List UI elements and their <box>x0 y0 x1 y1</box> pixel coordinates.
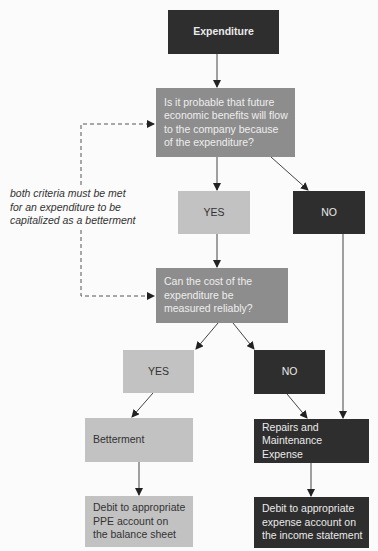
node-question-future-benefits-label: Is it probable that future economic bene… <box>164 96 288 150</box>
node-question-cost-reliable: Can the cost of the expenditure be measu… <box>156 268 288 323</box>
node-q2-no: NO <box>254 350 325 394</box>
node-repairs-maintenance: Repairs and Maintenance Expense <box>254 419 369 463</box>
node-q2-yes-label: YES <box>148 365 169 379</box>
node-q1-yes: YES <box>178 191 250 234</box>
node-betterment: Betterment <box>85 418 193 462</box>
node-repairs-maintenance-label: Repairs and Maintenance Expense <box>262 421 363 462</box>
node-q1-yes-label: YES <box>203 206 224 220</box>
node-debit-ppe-label: Debit to appropriate PPE account on the … <box>93 501 185 542</box>
node-betterment-label: Betterment <box>93 433 144 447</box>
node-q2-yes: YES <box>123 350 194 393</box>
node-question-cost-reliable-label: Can the cost of the expenditure be measu… <box>164 275 253 316</box>
node-debit-expense-label: Debit to appropriate expense account on … <box>262 502 362 543</box>
node-q1-no-label: NO <box>321 206 337 220</box>
node-question-future-benefits: Is it probable that future economic bene… <box>156 88 295 157</box>
node-q1-no: NO <box>293 191 365 234</box>
node-q2-no-label: NO <box>282 365 298 379</box>
node-expenditure: Expenditure <box>168 10 279 54</box>
node-debit-ppe: Debit to appropriate PPE account on the … <box>85 496 193 547</box>
criteria-annotation: both criteria must be met for an expendi… <box>10 187 150 228</box>
node-expenditure-label: Expenditure <box>193 25 254 39</box>
node-debit-expense: Debit to appropriate expense account on … <box>254 497 369 548</box>
